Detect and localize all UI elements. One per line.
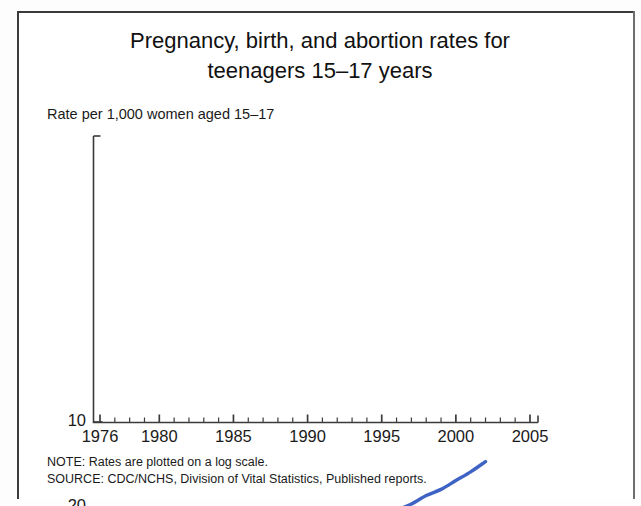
chart-note: NOTE: Rates are plotted on a log scale. xyxy=(47,455,268,469)
chart-axes xyxy=(94,136,539,506)
x-axis-tick-label: 2000 xyxy=(426,427,486,446)
x-axis-tick-label: 1995 xyxy=(352,427,412,446)
figure-page: Pregnancy, birth, and abortion rates for… xyxy=(0,0,641,506)
x-axis-tick-label: 1976 xyxy=(70,427,130,446)
x-axis-tick-label: 1985 xyxy=(203,427,263,446)
x-axis-tick-label: 1980 xyxy=(129,427,189,446)
y-axis-tick-label: 20 xyxy=(42,496,86,506)
chart-source: SOURCE: CDC/NCHS, Division of Vital Stat… xyxy=(47,472,427,486)
x-axis-tick-label: 2005 xyxy=(500,427,560,446)
x-axis-tick-label: 1990 xyxy=(278,427,338,446)
